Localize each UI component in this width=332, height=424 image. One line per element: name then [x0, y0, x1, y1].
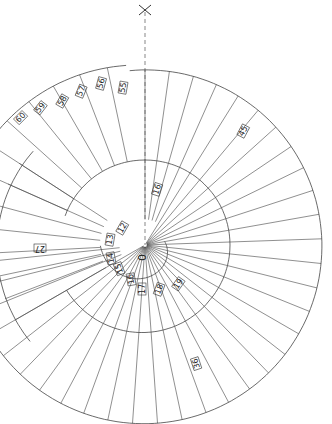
- tread-label-57: 57: [75, 84, 88, 98]
- tread-line: [40, 247, 144, 391]
- tread-label-16: 16: [126, 273, 137, 286]
- tread-line: [146, 247, 229, 402]
- tread-line: [0, 169, 67, 211]
- tread-line: [20, 246, 143, 374]
- tread-label-55: 55: [118, 81, 129, 94]
- tread-label-15: 15: [113, 262, 126, 276]
- tread-line: [147, 245, 321, 263]
- tread-label-58: 58: [55, 94, 69, 109]
- tread-label-18: 18: [153, 282, 166, 296]
- tread-line: [19, 163, 107, 220]
- tread-line: [0, 229, 100, 240]
- tread-line: [15, 268, 106, 321]
- svg-text:59: 59: [34, 101, 47, 115]
- tread-lines: [0, 68, 322, 424]
- tread-label-45: 45: [236, 124, 250, 139]
- tread-line: [0, 254, 101, 276]
- tread-label-16: 16: [151, 182, 163, 196]
- tread-label-59: 59: [33, 100, 47, 115]
- svg-text:56: 56: [95, 77, 106, 89]
- tread-line: [147, 147, 291, 244]
- tread-line: [147, 127, 276, 244]
- svg-text:18: 18: [153, 283, 165, 296]
- tread-line: [0, 206, 101, 233]
- left-outer-arc: [0, 151, 33, 341]
- tread-label-19: 19: [171, 276, 185, 291]
- tread-line: [146, 96, 238, 243]
- tread-line: [0, 246, 143, 335]
- tread-line: [0, 255, 121, 313]
- tread-line: [0, 247, 100, 253]
- tread-line: [146, 246, 268, 373]
- svg-text:13: 13: [105, 234, 116, 246]
- tread-line: [147, 239, 322, 245]
- svg-text:36: 36: [190, 357, 202, 369]
- tread-line: [147, 214, 319, 244]
- tread-label-36: 36: [190, 357, 202, 371]
- tread-label-17: 17: [138, 283, 147, 295]
- svg-text:15: 15: [113, 262, 125, 275]
- tread-line: [61, 247, 144, 403]
- tread-line: [147, 168, 304, 244]
- tread-label-12: 12: [115, 221, 129, 236]
- tread-label-27: 27: [34, 244, 46, 253]
- tread-line: [147, 246, 299, 334]
- tread-line: [147, 246, 310, 312]
- svg-text:17: 17: [138, 284, 147, 294]
- svg-text:19: 19: [172, 277, 185, 291]
- tread-line: [5, 261, 103, 299]
- svg-text:14: 14: [106, 252, 117, 264]
- svg-text:55: 55: [118, 82, 129, 94]
- tread-label-13: 13: [105, 233, 116, 246]
- svg-text:16: 16: [126, 273, 137, 285]
- tread-label-56: 56: [95, 77, 107, 91]
- svg-text:27: 27: [35, 244, 45, 253]
- tread-line: [8, 184, 104, 227]
- svg-text:16: 16: [151, 183, 163, 195]
- spiral-staircase-diagram: X 121314151617181916273645555657585960 0: [0, 0, 332, 424]
- tread-labels: 121314151617181916273645555657585960: [13, 77, 250, 371]
- center-label: 0: [136, 254, 149, 261]
- tread-line: [152, 76, 193, 220]
- tread-label-14: 14: [106, 252, 117, 265]
- tread-line: [7, 121, 82, 188]
